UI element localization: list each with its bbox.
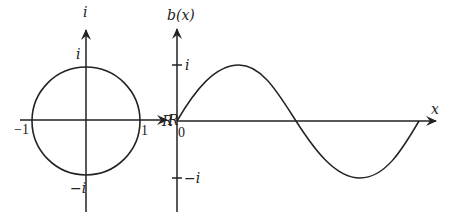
top-intercept-label: i xyxy=(76,46,80,62)
origin-label: 0 xyxy=(178,125,185,140)
imaginary-axis-label: i xyxy=(83,4,87,20)
x-axis-label: x xyxy=(431,101,439,117)
bottom-intercept-label: −i xyxy=(70,180,86,196)
right-intercept-label: 1 xyxy=(141,123,148,138)
origin-left-label: R xyxy=(161,113,173,129)
lower-tick-label: −i xyxy=(184,170,200,186)
left-intercept-label: −1 xyxy=(14,122,29,137)
diagram-canvas: i R i −i −1 1 b(x) x R 0 i −i xyxy=(0,0,452,224)
unit-circle-plot: i R i −i −1 1 xyxy=(14,4,179,212)
wave-plot: b(x) x R 0 i −i xyxy=(161,7,439,212)
upper-tick-label: i xyxy=(185,57,189,73)
b-axis-label: b(x) xyxy=(167,7,195,23)
